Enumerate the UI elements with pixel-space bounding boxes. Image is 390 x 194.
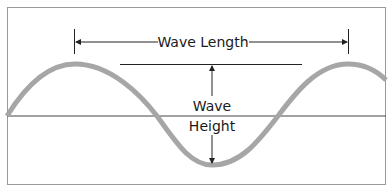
wave-height-label-line1: Wave [193, 98, 231, 114]
wave-height-label-line2: Height [189, 118, 236, 134]
wave-diagram: Wave Length Wave Height [0, 0, 390, 194]
wave-length-label: Wave Length [157, 34, 248, 50]
